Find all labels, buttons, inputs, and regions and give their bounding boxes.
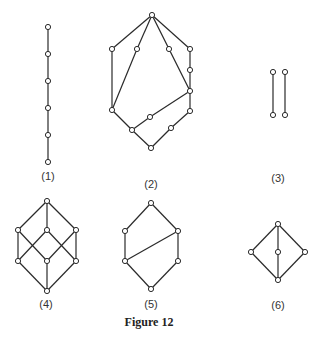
node bbox=[166, 46, 171, 51]
node bbox=[73, 258, 78, 263]
node bbox=[149, 12, 154, 17]
node bbox=[15, 227, 20, 232]
edge bbox=[18, 261, 47, 291]
node bbox=[270, 112, 275, 117]
node bbox=[45, 105, 50, 110]
edge bbox=[151, 261, 178, 289]
node bbox=[45, 24, 50, 29]
diagram-label-6: (6) bbox=[271, 299, 284, 311]
edge bbox=[151, 203, 178, 231]
node bbox=[275, 221, 280, 226]
node bbox=[282, 112, 287, 117]
diagram-6 bbox=[248, 221, 307, 282]
diagram-1 bbox=[45, 24, 50, 164]
node bbox=[187, 67, 192, 72]
node bbox=[148, 145, 153, 150]
diagram-4 bbox=[15, 198, 78, 293]
node bbox=[148, 286, 153, 291]
node bbox=[73, 227, 78, 232]
node bbox=[187, 88, 192, 93]
node bbox=[147, 114, 152, 119]
diagram-label-3: (3) bbox=[271, 172, 284, 184]
node bbox=[168, 125, 173, 130]
node bbox=[45, 78, 50, 83]
edge bbox=[47, 201, 76, 230]
edge bbox=[171, 111, 190, 128]
edge bbox=[169, 49, 190, 91]
node bbox=[44, 288, 49, 293]
node bbox=[187, 46, 192, 51]
node bbox=[44, 227, 49, 232]
edge bbox=[278, 224, 305, 252]
edge bbox=[150, 91, 190, 117]
edge bbox=[132, 117, 150, 130]
edge bbox=[251, 252, 278, 280]
node bbox=[122, 258, 127, 263]
node bbox=[275, 249, 280, 254]
edge bbox=[47, 261, 76, 291]
diagram-2 bbox=[109, 12, 192, 150]
node bbox=[302, 249, 307, 254]
node bbox=[275, 277, 280, 282]
node bbox=[122, 228, 127, 233]
node bbox=[45, 132, 50, 137]
node bbox=[175, 258, 180, 263]
node bbox=[15, 258, 20, 263]
node bbox=[109, 46, 114, 51]
node bbox=[45, 51, 50, 56]
edge bbox=[112, 15, 152, 49]
diagram-label-2: (2) bbox=[144, 178, 157, 190]
edge bbox=[152, 15, 190, 49]
node bbox=[44, 258, 49, 263]
node bbox=[45, 159, 50, 164]
edge bbox=[278, 252, 305, 280]
node bbox=[44, 198, 49, 203]
edge bbox=[137, 15, 152, 49]
node bbox=[187, 108, 192, 113]
edge bbox=[112, 49, 137, 110]
diagram-3 bbox=[270, 69, 287, 117]
edge bbox=[251, 224, 278, 252]
edge bbox=[112, 110, 132, 130]
diagram-label-4: (4) bbox=[39, 298, 52, 310]
node bbox=[134, 46, 139, 51]
edge bbox=[125, 231, 178, 261]
node bbox=[109, 107, 114, 112]
edge bbox=[151, 128, 171, 148]
node bbox=[282, 69, 287, 74]
diagram-5 bbox=[122, 200, 180, 291]
node bbox=[148, 200, 153, 205]
node bbox=[270, 69, 275, 74]
node bbox=[129, 127, 134, 132]
node bbox=[248, 249, 253, 254]
figure-caption: Figure 12 bbox=[125, 315, 174, 330]
edge bbox=[18, 201, 47, 230]
diagram-label-1: (1) bbox=[41, 170, 54, 182]
diagram-label-5: (5) bbox=[144, 298, 157, 310]
edge bbox=[125, 261, 151, 289]
node bbox=[175, 228, 180, 233]
edge bbox=[152, 15, 169, 49]
edge bbox=[132, 130, 151, 148]
figure-12: (1) (2) (3) (4) (5) (6) Figure 12 bbox=[0, 0, 320, 341]
edge bbox=[125, 203, 151, 231]
